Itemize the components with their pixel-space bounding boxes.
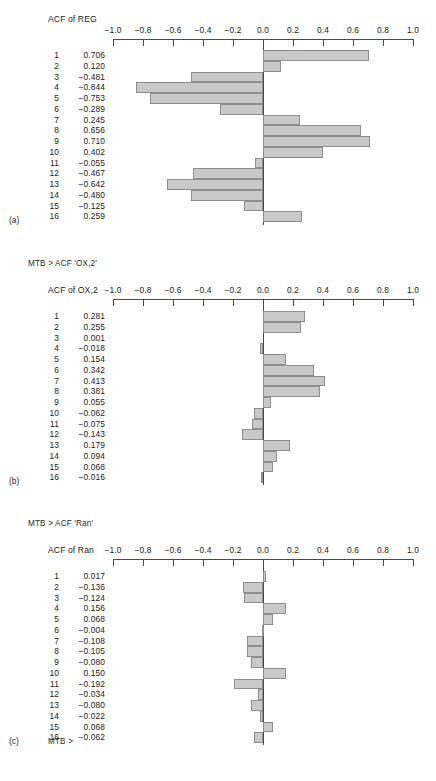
- table-row: 50.068: [0, 614, 105, 625]
- axis-tick-label: −0.2: [225, 545, 242, 555]
- axis-tick-mark: [173, 559, 174, 566]
- acf-bar: [263, 614, 273, 625]
- acf-value: −0.136: [65, 582, 105, 593]
- axis-tick-mark: [353, 559, 354, 566]
- axis-tick-mark: [323, 559, 324, 566]
- table-row: 7−0.108: [0, 636, 105, 647]
- lag-number: 7: [54, 636, 59, 647]
- lag-number: 8: [54, 646, 59, 657]
- lag-number: 2: [54, 582, 59, 593]
- axis-tick-mark: [383, 559, 384, 566]
- table-row: 9−0.080: [0, 657, 105, 668]
- lag-number: 9: [54, 657, 59, 668]
- axis-tick-mark: [113, 559, 114, 566]
- acf-bar: [263, 668, 286, 679]
- axis-tick-label: 1.0: [407, 545, 419, 555]
- acf-value: 0.068: [65, 614, 105, 625]
- table-row: 12−0.034: [0, 689, 105, 700]
- lag-number: 3: [54, 593, 59, 604]
- axis-tick-mark: [413, 559, 414, 566]
- acf-value: −0.080: [65, 700, 105, 711]
- acf-value: −0.105: [65, 646, 105, 657]
- axis-tick-label: 0.2: [287, 545, 299, 555]
- table-row: 3−0.124: [0, 593, 105, 604]
- axis-tick-mark: [143, 559, 144, 566]
- lag-number: 5: [54, 614, 59, 625]
- axis-tick-label: −0.8: [135, 545, 152, 555]
- acf-bar: [263, 722, 273, 733]
- axis-tick-label: −0.6: [165, 545, 182, 555]
- zero-reference-line: [263, 559, 264, 745]
- acf-value: −0.192: [65, 679, 105, 690]
- acf-value: 0.017: [65, 571, 105, 582]
- acf-value: 0.150: [65, 668, 105, 679]
- axis-tick-label: 0.6: [347, 545, 359, 555]
- acf-bar: [247, 636, 263, 647]
- lag-number: 6: [54, 625, 59, 636]
- acf-bar: [254, 732, 263, 743]
- lag-number: 12: [49, 689, 59, 700]
- lag-number: 11: [50, 679, 59, 690]
- acf-value: −0.004: [65, 625, 105, 636]
- table-row: 13−0.080: [0, 700, 105, 711]
- lag-value-table: 10.0172−0.1363−0.12440.15650.0686−0.0047…: [0, 571, 105, 743]
- lag-number: 1: [54, 571, 59, 582]
- acf-axis-title: ACF of Ran: [48, 545, 94, 555]
- axis-tick-label: 0.0: [257, 545, 269, 555]
- acf-bar: [262, 625, 264, 636]
- acf-bar: [244, 593, 263, 604]
- acf-value: −0.022: [65, 711, 105, 722]
- acf-output-page: ACF of REG−1.0−0.8−0.6−0.4−0.20.00.20.40…: [0, 0, 436, 781]
- acf-bar: [247, 646, 263, 657]
- axis-tick-mark: [233, 559, 234, 566]
- table-row: 11−0.192: [0, 679, 105, 690]
- lag-number: 15: [49, 722, 59, 733]
- axis-tick-label: 0.4: [317, 545, 329, 555]
- table-row: 8−0.105: [0, 646, 105, 657]
- lag-number: 14: [49, 711, 59, 722]
- axis-tick-mark: [293, 559, 294, 566]
- acf-value: −0.124: [65, 593, 105, 604]
- axis-tick-label: −1.0: [105, 545, 122, 555]
- table-row: 100.150: [0, 668, 105, 679]
- acf-bar: [260, 711, 263, 722]
- table-row: 150.068: [0, 722, 105, 733]
- acf-bar: [234, 679, 263, 690]
- acf-bar: [251, 657, 263, 668]
- acf-bar: [258, 689, 263, 700]
- table-row: 6−0.004: [0, 625, 105, 636]
- lag-number: 4: [54, 603, 59, 614]
- panel-letter: (c): [9, 736, 19, 746]
- axis-tick-label: 0.8: [377, 545, 389, 555]
- table-row: 10.017: [0, 571, 105, 582]
- table-row: 2−0.136: [0, 582, 105, 593]
- lag-number: 10: [49, 668, 59, 679]
- axis-tick-label: −0.4: [195, 545, 212, 555]
- axis-tick-mark: [203, 559, 204, 566]
- table-row: 14−0.022: [0, 711, 105, 722]
- acf-bar: [243, 582, 263, 593]
- acf-value: 0.068: [65, 722, 105, 733]
- acf-value: 0.156: [65, 603, 105, 614]
- acf-value: −0.108: [65, 636, 105, 647]
- acf-value: −0.080: [65, 657, 105, 668]
- mtb-command-line: MTB > ACF 'Ran': [28, 519, 93, 528]
- acf-panel-c: MTB > ACF 'Ran'ACF of Ran−1.0−0.8−0.6−0.…: [0, 0, 436, 781]
- lag-number: 13: [49, 700, 59, 711]
- acf-value: −0.034: [65, 689, 105, 700]
- table-row: 40.156: [0, 603, 105, 614]
- mtb-prompt-footer: MTB >: [48, 737, 73, 746]
- acf-bar: [251, 700, 263, 711]
- acf-bar: [263, 571, 266, 582]
- acf-bar: [263, 603, 286, 614]
